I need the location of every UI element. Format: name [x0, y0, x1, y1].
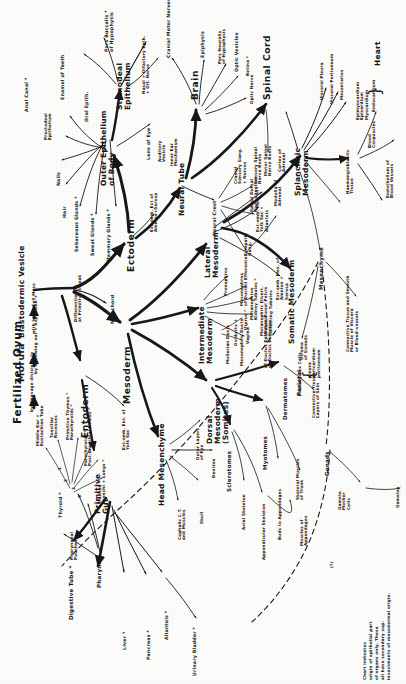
leaf-blood-corpuscles: BloodCorpuscles [368, 121, 377, 148]
node-pharyngeal-pouches: PharyngealPouches [70, 532, 79, 560]
leaf-parathyroids-postbranchial: Parathyroids *Post-branchial Bodies * [84, 407, 93, 466]
node-gonads: Gonads [324, 451, 330, 476]
leaf-extraembryonic-ent-yolk-sac: Ext-emb. Ent. ofYolk Sac [122, 410, 131, 451]
node-heart: Heart [374, 41, 382, 66]
leaf-primitive-thymus-parathyroids: Primitive Thymus *Parathyroids * [66, 393, 75, 440]
leaf-epiphysis: Epiphysis [200, 31, 205, 58]
leaf-auditory-vesicle: AuditoryVesicle [158, 141, 167, 162]
node-intermediate-mesoderm: IntermediateMesoderm [198, 306, 214, 364]
leaf-cranial-sensory-ganglia: CranialSensory Gang.+ Nerves [234, 148, 247, 184]
label-query-marker: (?) [330, 561, 334, 568]
node-outer-epithelium: Outer Epitheliumof Body [100, 110, 116, 186]
leaf-optic-vesicles: Optic Vesicles [234, 32, 239, 72]
node-dermatomes: Dermatomes [282, 378, 288, 420]
leaf-anal-canal: Anal Canal * [24, 77, 29, 112]
leaf-liver: Liver * [122, 631, 127, 650]
leaf-uterus: Uterus * [244, 309, 248, 330]
node-myotomes: Myotomes [262, 436, 268, 470]
leaf-oral-epithelium: Oral Epith. [84, 92, 89, 122]
node-dorsal-mesoderm: DorsalMesoderm(Somites) [206, 398, 230, 444]
leaf-extraembryonic-mes-yolk-sac: Ext-emb. Mes. ofYolk Sac +Allantois [256, 190, 269, 232]
node-pharynx: Pharynx [96, 561, 102, 588]
leaf-muscles-of-appendages: Muscles ofAppendages [300, 515, 309, 546]
node-spinal-cord: Spinal Cord [262, 35, 272, 100]
leaf-thyroid: Thyroid * [58, 492, 63, 518]
leaf-mesenteries: Mesenteries [340, 69, 344, 100]
leaf-nasal-olfactory-epithelium: Nasal + Olfactory Epth.+ Olf. Nerve [142, 35, 151, 94]
chart-footnote: Chart indicates origin of epithelial par… [362, 593, 392, 680]
leaf-ductus-epididymis: of Ductus Epididymisof Ductus Deferens [264, 315, 273, 368]
leaf-sebaceous-glands: Sebaceous Glands * [74, 196, 79, 252]
label-extraembryonic-ectoderm: Ext-emb. Ect ofAmnion+Serosa [150, 193, 159, 232]
leaf-tonsillar-recesses: TonsillarRecesses [50, 415, 59, 438]
leaf-middle-ear-eustachian-tube: Middle Ear +Eustachian Tube [36, 405, 45, 446]
footnote-line-5: investments of mesodermal origin. [386, 593, 392, 680]
node-blastodermic-vesicle: Blastodermic Vesicle [18, 246, 26, 339]
pouch-numeral-1: 1 [58, 467, 62, 470]
leaf-endothelium-blood-vessels: Endothelium ofBlood Vessels [386, 160, 395, 198]
leaf-sensory-spinal-nerve-roots: Sensory SpinalNerve Roots [254, 147, 263, 184]
node-splanchnic-mesoderm: SplanchnicMesoderm [294, 148, 310, 196]
leaf-appendicular-skeleton: Appendicular Skeleton [262, 504, 266, 560]
leaf-digestive-tube: Digestive Tube * [68, 565, 74, 620]
leaf-mesonephros: Mesonephrosof Ductuli Efferentes [240, 254, 249, 306]
leaf-pars-buccalis: Pars Buccalis *of Hypophysis [104, 10, 114, 52]
leaf-proctodeal-epithelium: ProctodealEpithelium [44, 113, 53, 140]
pouch-numeral-2: 2 [64, 479, 68, 482]
leaf-inner-ear-mechanism: Inner EarMechanism [170, 138, 179, 166]
leaf-allantois: Allantois * [164, 611, 169, 640]
node-neural-crest: Neural Crest [212, 200, 217, 236]
node-ectoderm: Ectoderm [126, 219, 136, 272]
leaf-pars-neuralis-hypophysis: Pars Neuralisof Hypophysis [218, 29, 227, 64]
leaf-urinary-bladder: Urinary Bladder * [192, 627, 197, 676]
label-notochord: Notochord [110, 295, 115, 324]
leaf-visceral-peritoneum: Visceral Peritoneum [330, 54, 334, 104]
label-differentiation: Differentiationat Primitive Streak [74, 275, 83, 322]
leaf-skeletal-muscles-trunk: Skeletal Musclesof Trunk [296, 458, 305, 500]
label-inner-cell-mass: with Inner Cell Mass [32, 283, 36, 334]
leaf-pancreas: Pancreas * [146, 630, 151, 660]
leaf-enamel-of-teeth: Enamel of Teeth [60, 55, 65, 100]
leaf-sweat-glands: Sweat Glands * [90, 213, 95, 256]
node-sclerotomes: Sclerotomes [226, 451, 232, 492]
leaf-visceral-pleura: Visceral Pleura [320, 62, 324, 100]
node-neural-tube: Neural Tube [178, 163, 186, 216]
leaf-metanephros: MetanephrosKidney Tubules * [250, 278, 259, 320]
pouch-numeral-3: 3 [72, 487, 76, 490]
brace-heart: } [366, 86, 384, 96]
node-mesoderm: Mesoderm [122, 346, 132, 404]
leaf-trachea-bronchi-lungs: Trachea *Bronchi + Lungs * [98, 459, 107, 504]
leaf-cranial-motor-nerves: Cranial Motor Nerves [166, 0, 171, 58]
leaf-dentine: Dentine [212, 458, 216, 478]
leaf-retina: Retina * [246, 56, 250, 76]
leaf-gametes: Gametes [396, 486, 400, 508]
leaf-hair: Hair [62, 206, 67, 218]
leaf-axial-skeleton: Axial Skeleton [242, 494, 246, 530]
leaf-haemangioblastic-tissue: HaemangioblasticTissue [346, 149, 355, 194]
leaf-optic-nerve: Optic Nerve [250, 75, 254, 105]
leaf-mammary-glands: Mammary Glands * [106, 209, 111, 262]
leaf-stroma-of-gonads: Stromaof Gonads [300, 335, 309, 360]
leaf-sympathetic-ganglia: Sympath.Gang. [244, 232, 253, 256]
leaf-buds-to-appendages: Buds to Appendages [278, 489, 282, 540]
node-stomodeal-epithelium: StomodealEpithelium [116, 62, 132, 110]
node-mesenchyme: Mesenchyme [318, 247, 324, 290]
leaf-mullerian-ducts: Mullerian Ducts [226, 325, 230, 364]
leaf-outer-layers-of-eye: Outer Layersof Eye [196, 428, 205, 460]
node-morula: Morula [16, 343, 26, 382]
leaf-connective-tissue-viscera: Connective Tissue and SmoothMuscle of Vi… [346, 275, 359, 352]
leaf-oviducts: Oviducts + [234, 319, 238, 346]
leaf-lens-of-eye: Lens of Eye [146, 128, 151, 160]
leaf-gamete-mother-cells: GameteMotherCells [338, 491, 351, 510]
embryology-derivation-chart: Fertilized Ovum by cleavage divisions to… [0, 0, 406, 684]
leaf-motor-spinal-nerve-roots: Motor SpinalNerve Roots [264, 144, 273, 176]
node-lateral-mesoderm: LateralMesoderm [204, 232, 220, 278]
leaf-cortex-of-adrenal: Cortex ofAdrenal [278, 149, 287, 172]
leaf-parietal-serosae: pleurapericardiumperitoneum [308, 348, 321, 378]
leaf-nails: Nails [56, 172, 61, 186]
leaf-extraembryonic-mes-amnion: Ext-emb. Mes. ofAmnion +Serosa [276, 258, 289, 300]
pouch-numeral-4: 4 [78, 495, 82, 498]
leaf-skull: Skull [200, 512, 204, 524]
node-brain: Brain [190, 70, 200, 100]
leaf-pronephros: Pronephros [224, 267, 228, 296]
